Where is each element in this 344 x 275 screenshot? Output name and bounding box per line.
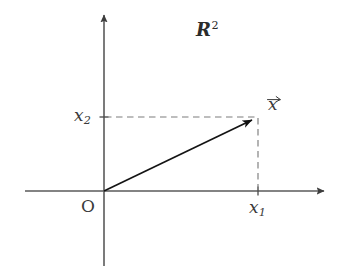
- y-axis-component-base: x: [74, 105, 84, 125]
- diagram-canvas: [0, 0, 344, 275]
- space-label-exponent: 2: [211, 19, 218, 32]
- y-axis-component-subscript: 2: [84, 114, 91, 127]
- vector-overarrow-icon: [267, 88, 282, 95]
- space-label-r2: R2: [196, 20, 219, 39]
- x-axis-component-label: x1: [249, 199, 266, 218]
- origin-label: O: [81, 198, 95, 215]
- vector-diagram-figure: R2 x2 x1 O x: [0, 0, 344, 275]
- overarrow-glyph: [267, 95, 282, 102]
- figure-background: [0, 0, 344, 275]
- space-label-base: R: [196, 19, 211, 40]
- vector-label-stack: x: [268, 96, 278, 113]
- x-axis-component-base: x: [249, 197, 259, 217]
- y-axis-component-label: x2: [74, 107, 91, 126]
- x-axis-component-subscript: 1: [259, 206, 266, 219]
- vector-label: x: [268, 96, 278, 113]
